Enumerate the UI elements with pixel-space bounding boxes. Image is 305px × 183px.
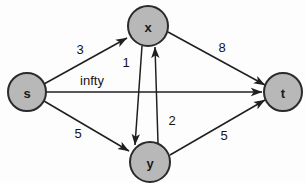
edge-label-s-x: 3: [76, 42, 83, 57]
edge-s-y: [44, 101, 129, 151]
node-y[interactable]: y: [130, 142, 170, 182]
edge-x-t: [168, 32, 265, 85]
node-s[interactable]: s: [8, 73, 46, 111]
edge-label-y-t: 5: [220, 128, 227, 143]
edge-label-s-y: 5: [74, 126, 81, 141]
node-t[interactable]: t: [264, 73, 302, 111]
graph-canvas: s x y t 3 infty 5 1 2 8 5: [0, 0, 305, 183]
edge-label-s-t: infty: [80, 73, 104, 88]
nodes-group: s x y t: [8, 6, 302, 182]
edge-y-x: [155, 47, 158, 143]
edge-label-x-t: 8: [218, 40, 225, 55]
edge-label-x-y: 1: [122, 55, 129, 70]
node-t-label: t: [281, 86, 286, 101]
edge-y-t: [170, 100, 265, 155]
node-s-label: s: [23, 86, 30, 101]
node-y-label: y: [146, 156, 154, 171]
flow-network-diagram: s x y t 3 infty 5 1 2 8 5: [0, 0, 305, 183]
node-x-label: x: [144, 20, 152, 35]
node-x[interactable]: x: [128, 6, 168, 46]
edge-x-y: [135, 46, 142, 145]
edge-label-y-x: 2: [168, 113, 175, 128]
